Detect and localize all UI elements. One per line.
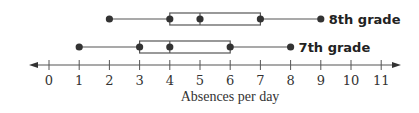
tick-label: 11 — [373, 73, 390, 88]
tick-label: 4 — [166, 73, 174, 88]
tick-label: 0 — [45, 73, 53, 88]
series-label: 8th grade — [329, 12, 401, 27]
data-point — [227, 43, 234, 50]
plot-area: 8th grade7th grade — [76, 12, 401, 55]
axis-ticks: 01234567891011 — [45, 60, 390, 88]
axis-arrow-right-icon — [392, 62, 401, 68]
data-point — [166, 15, 173, 22]
tick-label: 2 — [105, 73, 113, 88]
data-point — [257, 15, 264, 22]
box-plot-chart: 8th grade7th grade 01234567891011 Absenc… — [0, 0, 419, 113]
box-plot-7th-grade: 7th grade — [76, 40, 371, 55]
tick-label: 3 — [135, 73, 143, 88]
tick-label: 10 — [343, 73, 360, 88]
data-point — [106, 15, 113, 22]
box-plot-8th-grade: 8th grade — [106, 12, 401, 27]
data-point — [317, 15, 324, 22]
tick-label: 6 — [226, 73, 234, 88]
tick-label: 9 — [317, 73, 325, 88]
axis-arrow-left-icon — [29, 62, 38, 68]
tick-label: 5 — [196, 73, 204, 88]
tick-label: 1 — [75, 73, 83, 88]
axis-title: Absences per day — [181, 89, 280, 104]
series-label: 7th grade — [299, 40, 371, 55]
axis: 01234567891011 — [29, 60, 401, 88]
tick-label: 8 — [286, 73, 294, 88]
box — [170, 13, 261, 25]
box — [140, 41, 231, 53]
data-point — [76, 43, 83, 50]
data-point — [196, 15, 203, 22]
data-point — [166, 43, 173, 50]
data-point — [287, 43, 294, 50]
tick-label: 7 — [256, 73, 264, 88]
data-point — [136, 43, 143, 50]
